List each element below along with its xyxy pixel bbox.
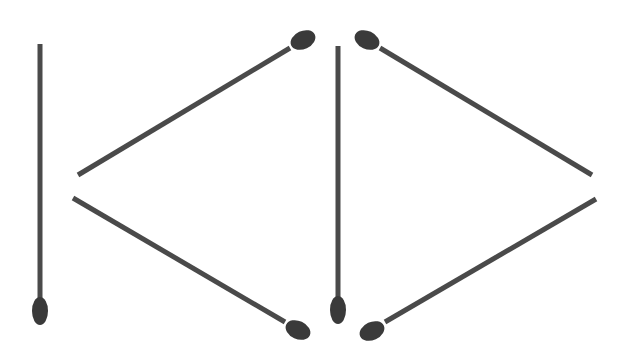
matchstick-head-icon [287, 26, 318, 53]
matchstick[interactable] [356, 199, 596, 345]
matchstick-stick [385, 199, 596, 322]
matchstick-canvas [0, 0, 627, 355]
matchstick-head-icon [351, 26, 382, 53]
matchstick-stick [78, 48, 290, 175]
matchstick[interactable] [73, 198, 314, 344]
matchstick-head-icon [330, 296, 346, 324]
matchstick-head-icon [32, 297, 48, 325]
matchstick[interactable] [351, 26, 592, 175]
matchstick-head-icon [282, 316, 313, 343]
matchstick-stick [380, 48, 592, 175]
matchstick-head-icon [356, 317, 387, 344]
matchstick-stick [73, 198, 285, 322]
matchstick[interactable] [78, 26, 319, 175]
matchstick[interactable] [32, 44, 48, 325]
matchstick[interactable] [330, 46, 346, 324]
